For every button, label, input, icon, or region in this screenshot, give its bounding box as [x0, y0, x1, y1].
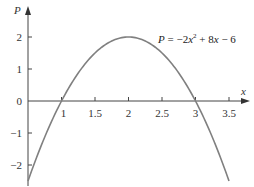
- x-tick-label: 3: [193, 107, 199, 119]
- x-tick-label: 2: [126, 107, 132, 119]
- y-axis-arrow-icon: [25, 6, 31, 15]
- x-tick-label: 2.5: [155, 107, 169, 119]
- parabola-chart: 210−1−2 11.522.533.5 P x P = −2x2 + 8x −…: [0, 0, 254, 187]
- x-tick-label: 3.5: [222, 107, 236, 119]
- y-tick-label: 0: [17, 95, 23, 107]
- x-tick-label: 1: [61, 107, 67, 119]
- y-tick-label: 1: [17, 63, 23, 75]
- equation-label: P = −2x2 + 8x − 6: [157, 32, 236, 45]
- x-ticks: 11.522.533.5: [61, 97, 237, 119]
- x-axis-arrow-icon: [241, 98, 250, 104]
- y-tick-label: −2: [10, 159, 22, 171]
- y-tick-label: 2: [17, 31, 23, 43]
- y-tick-label: −1: [10, 127, 22, 139]
- x-tick-label: 1.5: [88, 107, 102, 119]
- y-axis-label: P: [13, 4, 21, 16]
- x-axis-label: x: [240, 85, 246, 97]
